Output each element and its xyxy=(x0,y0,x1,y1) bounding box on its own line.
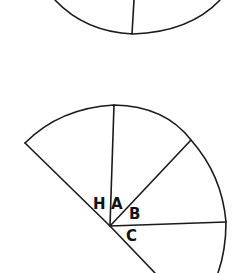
top-sector-radius xyxy=(132,0,134,34)
top-sector-arc xyxy=(55,0,220,34)
diagonal-radius xyxy=(110,140,191,226)
horizontal-radius xyxy=(110,222,226,226)
left-radius xyxy=(25,143,110,226)
lower-sector-arc xyxy=(25,105,226,273)
top-sector xyxy=(55,0,220,34)
lower-sector: H A B C xyxy=(25,105,226,273)
angle-label-h: H xyxy=(93,195,106,213)
angle-label-c: C xyxy=(126,227,137,245)
geometry-diagram: H A B C xyxy=(0,0,240,273)
angle-label-b: B xyxy=(129,205,140,223)
angle-label-a: A xyxy=(111,195,123,213)
